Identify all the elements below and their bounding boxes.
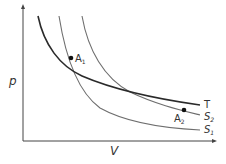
curve-t-label: T xyxy=(203,99,211,110)
point-a1 xyxy=(69,56,74,61)
curve-t xyxy=(38,16,200,105)
curve-s2 xyxy=(82,16,200,115)
y-axis-label: p xyxy=(8,74,17,88)
y-axis-arrow-icon xyxy=(21,4,25,9)
x-axis-arrow-icon xyxy=(212,139,217,143)
point-a2 xyxy=(182,108,187,113)
x-axis-label: V xyxy=(110,144,119,158)
curve-s2-label: S2 xyxy=(204,111,214,123)
axes xyxy=(21,4,217,143)
point-a2-label: A2 xyxy=(174,113,185,125)
curve-s1-label: S1 xyxy=(204,124,214,136)
point-a1-label: A1 xyxy=(75,53,86,65)
pv-diagram: p V A1 A2 T S2 S1 xyxy=(0,0,226,164)
